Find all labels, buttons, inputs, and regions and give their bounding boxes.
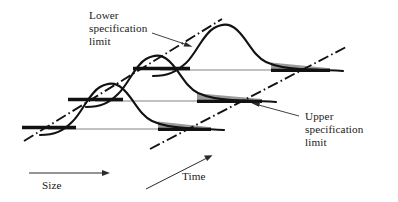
specification-limits-diagram: Lower specification limit Upper specific… [0, 0, 398, 202]
upper-specification-limit-annotation: Upper specification limit [251, 102, 363, 148]
upper-spec-limit-leader-line [255, 104, 299, 116]
lower-spec-limit-line3: limit [89, 35, 111, 47]
time-axis: Time [146, 155, 213, 189]
size-axis-arrowhead [102, 170, 110, 176]
lower-specification-limit-line [24, 19, 222, 141]
lower-spec-limit-arrowhead [184, 42, 193, 47]
time-axis-label: Time [182, 170, 206, 182]
lower-spec-limit-line1: Lower [89, 9, 119, 21]
distribution-back [133, 25, 343, 76]
upper-spec-limit-line3: limit [305, 136, 327, 148]
time-axis-arrowhead [204, 155, 213, 161]
size-axis: Size [29, 170, 110, 191]
lower-spec-limit-leader-line [152, 33, 189, 46]
lower-specification-limit-annotation: Lower specification limit [89, 9, 193, 47]
upper-spec-limit-line2: specification [305, 123, 364, 135]
upper-spec-limit-line1: Upper [305, 110, 334, 122]
lower-spec-limit-line2: specification [89, 22, 148, 34]
size-axis-label: Size [42, 179, 62, 191]
figure-root: Lower specification limit Upper specific… [0, 0, 398, 202]
distribution-middle [68, 56, 276, 107]
